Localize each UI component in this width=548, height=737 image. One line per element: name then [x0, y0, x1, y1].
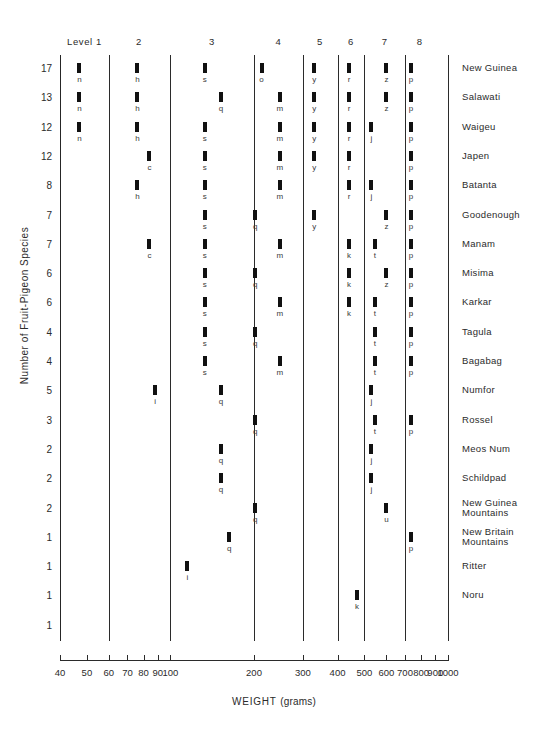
data-mark-species-code: q [219, 485, 223, 494]
data-mark [409, 180, 413, 190]
data-mark-species-code: y [312, 163, 316, 172]
data-mark-species-code: m [277, 134, 284, 143]
data-mark-species-code: t [374, 368, 376, 377]
row-species-count: 5 [30, 385, 52, 396]
data-mark [373, 356, 377, 366]
row-species-count: 2 [30, 502, 52, 513]
data-mark [312, 151, 316, 161]
data-mark [135, 180, 139, 190]
level-header-4: 4 [276, 36, 282, 47]
island-name-label: Karkar [462, 297, 492, 308]
level-header-6: 6 [348, 36, 354, 47]
data-mark-species-code: s [203, 163, 207, 172]
island-name-label: Goodenough [462, 209, 520, 220]
data-mark [203, 151, 207, 161]
data-mark [203, 327, 207, 337]
island-name-label: Batanta [462, 180, 497, 191]
data-mark-species-code: j [371, 397, 373, 406]
x-axis-title-main: WEIGHT [232, 696, 277, 707]
data-mark-species-code: p [409, 339, 413, 348]
data-mark [77, 92, 81, 102]
data-mark-species-code: p [409, 251, 413, 260]
x-axis-tick-50 [87, 655, 88, 661]
data-mark [185, 561, 189, 571]
data-mark-species-code: p [409, 75, 413, 84]
island-name-label: Japen [462, 151, 489, 162]
data-mark [409, 210, 413, 220]
island-name-label: Misima [462, 268, 494, 279]
x-axis-tick-80 [144, 655, 145, 661]
data-mark [347, 63, 351, 73]
data-mark [347, 122, 351, 132]
data-mark [409, 415, 413, 425]
row-species-count: 6 [30, 268, 52, 279]
level-divider-line-1000 [448, 55, 449, 641]
data-mark-species-code: p [409, 544, 413, 553]
data-mark-species-code: k [347, 251, 351, 260]
data-mark-species-code: s [203, 251, 207, 260]
data-mark-species-code: m [277, 104, 284, 113]
data-mark [135, 122, 139, 132]
level-divider-line-100 [170, 55, 171, 641]
data-mark [278, 239, 282, 249]
data-mark [312, 63, 316, 73]
data-mark [373, 297, 377, 307]
data-mark-species-code: s [203, 192, 207, 201]
island-name-label: New Guinea Mountains [462, 497, 517, 518]
data-mark [384, 503, 388, 513]
data-mark-species-code: i [154, 397, 156, 406]
data-mark [219, 92, 223, 102]
data-mark [347, 92, 351, 102]
level-divider-line-500 [364, 55, 365, 641]
x-axis-tick-900 [435, 655, 436, 661]
level-header-8: 8 [417, 36, 423, 47]
data-mark-species-code: q [227, 544, 231, 553]
row-species-count: 1 [30, 531, 52, 542]
x-axis-tick-1000 [448, 655, 449, 661]
data-mark [347, 239, 351, 249]
level-header-7: 7 [382, 36, 388, 47]
data-mark [253, 415, 257, 425]
x-axis-tick-70 [127, 655, 128, 661]
row-species-count: 17 [30, 63, 52, 74]
data-mark-species-code: s [203, 222, 207, 231]
data-mark [355, 590, 359, 600]
x-axis-tick-700 [405, 655, 406, 661]
plot-area [60, 55, 448, 641]
data-mark-species-code: p [409, 104, 413, 113]
data-mark [312, 122, 316, 132]
x-axis-tick-label-1000: 1000 [437, 667, 458, 678]
data-mark-species-code: s [203, 280, 207, 289]
island-name-label: Noru [462, 590, 484, 601]
island-name-label: Salawati [462, 92, 500, 103]
data-mark-species-code: p [409, 163, 413, 172]
data-mark [147, 151, 151, 161]
x-axis-tick-label-40: 40 [55, 667, 66, 678]
data-mark [147, 239, 151, 249]
row-species-count: 7 [30, 209, 52, 220]
fruit-pigeon-weight-chart: Number of Fruit-Pigeon Species 405060708… [0, 0, 548, 737]
x-axis-tick-label-100: 100 [163, 667, 179, 678]
data-mark-species-code: k [355, 602, 359, 611]
x-axis-tick-label-50: 50 [82, 667, 93, 678]
data-mark [203, 356, 207, 366]
island-name-label: Waigeu [462, 121, 496, 132]
y-axis-title: Number of Fruit-Pigeon Species [19, 196, 30, 416]
data-mark [203, 239, 207, 249]
data-mark [409, 151, 413, 161]
data-mark-species-code: s [203, 134, 207, 143]
data-mark-species-code: c [147, 163, 151, 172]
data-mark-species-code: j [371, 485, 373, 494]
data-mark-species-code: s [203, 75, 207, 84]
x-axis-tick-400 [338, 655, 339, 661]
level-header-1: Level 1 [67, 36, 102, 47]
island-name-label: Ritter [462, 561, 487, 572]
data-mark-species-code: o [259, 75, 263, 84]
row-species-count: 1 [30, 561, 52, 572]
data-mark-species-code: u [384, 515, 388, 524]
x-axis-tick-label-600: 600 [378, 667, 394, 678]
row-species-count: 1 [30, 590, 52, 601]
data-mark-species-code: t [374, 251, 376, 260]
level-divider-line-200 [254, 55, 255, 641]
data-mark [384, 63, 388, 73]
